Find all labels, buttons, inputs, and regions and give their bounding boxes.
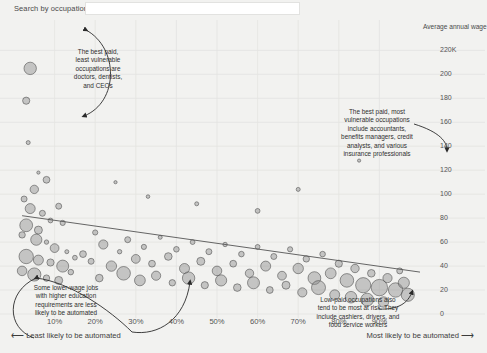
y-axis-tick-label: 0 <box>440 310 444 317</box>
y-axis-tick-label: 200 <box>440 70 452 77</box>
y-axis-title: Average annual wage <box>423 23 487 30</box>
right-arrow-icon: ⟶ <box>461 330 474 340</box>
y-axis-tick-label: 120 <box>440 166 452 173</box>
chart-plot-area: Average annual wage 220K2001801601401201… <box>0 20 485 353</box>
x-axis-tick-label: 30% <box>128 317 143 326</box>
x-axis-tick-label: 60% <box>250 317 265 326</box>
annotation-best-paid-least-vulnerable: The best paid, least vulnerable occupati… <box>62 48 134 90</box>
x-axis-tick-label: 10% <box>47 317 62 326</box>
y-axis-tick-label: 140 <box>440 142 452 149</box>
annotation-best-paid-most-vulnerable: The best paid, most vulnerable occupatio… <box>327 108 427 159</box>
x-axis-tick-label: 40% <box>169 317 184 326</box>
axis-note-least-likely: ⟵ Least likely to be automated <box>11 331 121 340</box>
annotation-low-paid-most-at-risk: Low-paid occupations also tend to be mos… <box>303 296 413 330</box>
axis-note-most-likely-label: Most likely to be automated <box>366 331 458 340</box>
y-axis-tick-label: 160 <box>440 118 452 125</box>
axis-note-most-likely: Most likely to be automated ⟶ <box>366 331 474 340</box>
y-axis-tick-label: 40 <box>440 262 448 269</box>
y-axis-tick-label: 60 <box>440 238 448 245</box>
y-axis-tick-label: 100 <box>440 190 452 197</box>
search-bar: Search by occupation: <box>0 0 485 20</box>
y-axis-tick-label: 80 <box>440 214 448 221</box>
y-axis-tick-label: 180 <box>440 94 452 101</box>
axis-note-least-likely-label: Least likely to be automated <box>26 331 121 340</box>
x-axis-tick-label: 20% <box>88 317 103 326</box>
search-input[interactable] <box>85 2 300 15</box>
x-axis-tick-label: 50% <box>209 317 224 326</box>
left-arrow-icon: ⟵ <box>11 330 24 340</box>
search-label: Search by occupation: <box>14 4 90 13</box>
annotation-lower-wage-higher-education: Some lower-wage jobs with higher educati… <box>20 284 112 318</box>
y-axis-tick-label: 220K <box>440 46 456 53</box>
y-axis-tick-label: 20 <box>440 286 448 293</box>
